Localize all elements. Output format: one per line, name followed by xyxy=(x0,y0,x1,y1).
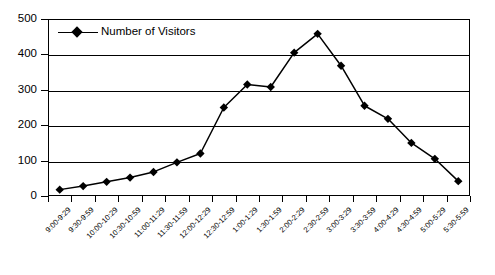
x-tick-mark xyxy=(48,196,49,202)
x-tick-mark xyxy=(400,196,401,202)
x-tick-mark xyxy=(329,196,330,202)
visitors-line-chart: 0100200300400500 9:00-9:299:30-9:5910:00… xyxy=(0,0,495,275)
gridline xyxy=(49,126,469,127)
legend-marker-icon xyxy=(58,26,98,38)
x-tick-mark xyxy=(95,196,96,202)
y-tick-mark xyxy=(41,161,48,162)
x-tick-mark xyxy=(306,196,307,202)
y-axis: 0100200300400500 xyxy=(0,0,44,215)
x-tick-mark xyxy=(165,196,166,202)
x-tick-mark xyxy=(423,196,424,202)
x-tick-mark xyxy=(71,196,72,202)
y-tick-label: 0 xyxy=(31,190,37,202)
x-tick-mark xyxy=(470,196,471,202)
y-tick-label: 400 xyxy=(18,49,37,61)
x-tick-mark xyxy=(447,196,448,202)
y-tick-label: 500 xyxy=(18,13,37,25)
y-tick-mark xyxy=(41,54,48,55)
x-tick-mark xyxy=(282,196,283,202)
y-tick-mark xyxy=(41,196,48,197)
x-tick-mark xyxy=(212,196,213,202)
y-tick-label: 200 xyxy=(18,119,37,131)
y-tick-label: 300 xyxy=(18,84,37,96)
x-tick-mark xyxy=(118,196,119,202)
gridline xyxy=(49,91,469,92)
y-tick-mark xyxy=(41,125,48,126)
plot-area xyxy=(48,19,470,196)
y-tick-label: 100 xyxy=(18,155,37,167)
x-tick-mark xyxy=(259,196,260,202)
gridline xyxy=(49,55,469,56)
x-tick-mark xyxy=(236,196,237,202)
legend-entry-label: Number of Visitors xyxy=(101,26,195,38)
gridline xyxy=(49,162,469,163)
x-tick-mark xyxy=(142,196,143,202)
x-tick-mark xyxy=(189,196,190,202)
x-tick-mark xyxy=(376,196,377,202)
legend: Number of Visitors xyxy=(58,26,195,38)
y-tick-mark xyxy=(41,19,48,20)
y-tick-mark xyxy=(41,90,48,91)
x-tick-mark xyxy=(353,196,354,202)
